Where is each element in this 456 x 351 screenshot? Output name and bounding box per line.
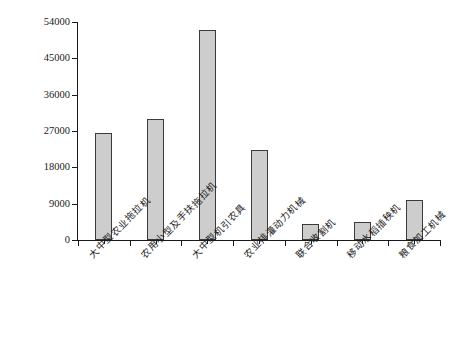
y-axis-tick-mark (72, 95, 78, 96)
x-axis-tick-mark (130, 241, 131, 246)
y-axis-tick-label-text: 54000 (14, 17, 70, 27)
x-axis-tick-mark (181, 241, 182, 246)
y-axis-tick-label-text: 9000 (14, 199, 70, 209)
x-axis-tick-mark (233, 241, 234, 246)
x-axis-tick-mark (388, 241, 389, 246)
bar (95, 133, 112, 240)
x-axis-tick-mark (337, 241, 338, 246)
y-axis-tick-mark (72, 58, 78, 59)
bar-chart: 数量(台、部) 540004500036000270001800090000 大… (0, 0, 456, 351)
y-axis-tick-label-text: 18000 (14, 162, 70, 172)
y-axis-tick-label: 9000 (8, 199, 70, 209)
y-axis-tick-label: 27000 (8, 126, 70, 136)
y-axis-tick-mark (72, 204, 78, 205)
y-axis-tick-mark (72, 131, 78, 132)
y-axis-tick-label: 45000 (8, 53, 70, 63)
y-axis-tick-label-text: 36000 (14, 90, 70, 100)
x-axis-tick-mark (285, 241, 286, 246)
x-axis-tick-mark (78, 241, 79, 246)
bar (147, 119, 164, 240)
y-axis-tick-label: 54000 (8, 17, 70, 27)
y-axis-tick-label-text: 0 (14, 235, 70, 245)
y-axis-tick-label: 36000 (8, 90, 70, 100)
x-axis-tick-mark (440, 241, 441, 246)
y-axis-tick-label-text: 45000 (14, 53, 70, 63)
y-axis-tick-mark (72, 167, 78, 168)
bar (199, 30, 216, 240)
y-axis-tick-label-text: 27000 (14, 126, 70, 136)
y-axis-tick-label: 0 (8, 235, 70, 245)
y-axis-tick-mark (72, 22, 78, 23)
bar (251, 150, 268, 240)
y-axis-tick-label: 18000 (8, 162, 70, 172)
